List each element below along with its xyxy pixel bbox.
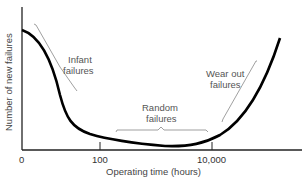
wear-out-label-line1: Wear out [206, 68, 245, 79]
x-tick-label-100: 100 [92, 154, 108, 165]
wear-out-label-line2: failures [210, 79, 241, 90]
x-axis-title: Operating time (hours) [106, 166, 201, 177]
random-label-line2: failures [146, 113, 177, 124]
x-tick-label-10000: 10,000 [197, 154, 226, 165]
x-tick-label-0: 0 [19, 154, 24, 165]
bathtub-chart: Infant failures Random failures Wear out… [0, 0, 308, 177]
infant-label-line2: failures [63, 65, 94, 76]
random-label-line1: Random [142, 102, 178, 113]
random-bracket [116, 127, 208, 132]
y-axis-title: Number of new failures [3, 33, 14, 131]
infant-label-line1: Infant [68, 54, 92, 65]
bathtub-curve [22, 30, 280, 146]
